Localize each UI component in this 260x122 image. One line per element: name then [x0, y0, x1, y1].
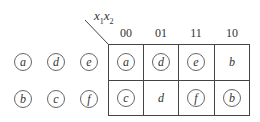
cell-r2-10: b — [223, 89, 241, 107]
cell-r2-01: d — [152, 89, 170, 107]
state-e: e — [80, 53, 98, 71]
state-c: c — [47, 90, 65, 108]
cell-r2-00: c — [117, 89, 135, 107]
state-b: b — [14, 90, 32, 108]
cell-r1-01: d — [152, 53, 170, 71]
variable-label: x1x2 — [94, 8, 114, 26]
cell-r2-11: f — [187, 89, 205, 107]
column-header-10: 10 — [214, 26, 250, 41]
state-f: f — [80, 90, 98, 108]
state-a: a — [14, 53, 32, 71]
column-header-01: 01 — [143, 26, 179, 41]
column-header-11: 11 — [178, 26, 214, 41]
grid-line — [108, 80, 250, 81]
column-header-00: 00 — [108, 26, 144, 41]
cell-r1-10: b — [223, 53, 241, 71]
cell-r1-00: a — [117, 53, 135, 71]
cell-r1-11: e — [187, 53, 205, 71]
state-d: d — [47, 53, 65, 71]
